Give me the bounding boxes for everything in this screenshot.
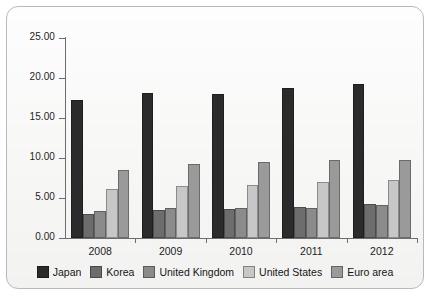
bar <box>153 210 165 238</box>
y-axis-tick-label: 0.00 <box>35 231 55 242</box>
bar <box>106 189 118 238</box>
legend-swatch-icon <box>37 266 49 278</box>
y-axis-tick-label: 10.00 <box>29 151 55 162</box>
legend-item-label: United States <box>259 266 322 278</box>
bar <box>235 208 247 238</box>
bar <box>294 207 306 238</box>
x-axis-tick-mark <box>135 238 136 243</box>
legend-item-label: Korea <box>106 266 134 278</box>
x-axis-group-label: 2012 <box>347 245 417 257</box>
legend-item[interactable]: Japan <box>37 266 82 278</box>
legend-item-label: Japan <box>53 266 82 278</box>
legend-swatch-icon <box>331 266 343 278</box>
bar <box>399 160 411 238</box>
legend-swatch-icon <box>143 266 155 278</box>
bar <box>188 164 200 238</box>
bar <box>224 209 236 238</box>
x-axis-group-label: 2008 <box>65 245 135 257</box>
bar <box>142 93 154 238</box>
plot-area <box>65 38 417 238</box>
legend-item[interactable]: Korea <box>90 266 134 278</box>
bar <box>176 186 188 238</box>
bar <box>317 182 329 238</box>
bar <box>212 94 224 238</box>
legend-swatch-icon <box>243 266 255 278</box>
legend-swatch-icon <box>90 266 102 278</box>
bar <box>329 160 341 238</box>
y-axis-tick-label: 20.00 <box>29 71 55 82</box>
legend-item[interactable]: United States <box>243 266 322 278</box>
y-axis-tick-label: 15.00 <box>29 111 55 122</box>
x-axis-group-label: 2009 <box>135 245 205 257</box>
bar <box>376 205 388 238</box>
legend-item-label: Euro area <box>347 266 393 278</box>
x-axis-tick-mark <box>276 238 277 243</box>
bar <box>83 214 95 238</box>
bar <box>71 100 83 238</box>
bar <box>306 208 318 238</box>
x-axis-line <box>65 238 417 239</box>
bar <box>165 208 177 238</box>
chart-card: 0.005.0010.0015.0020.0025.00 20082009201… <box>6 6 424 289</box>
x-axis-tick-mark <box>347 238 348 243</box>
bar <box>364 204 376 238</box>
bar <box>247 185 259 238</box>
legend-item[interactable]: Euro area <box>331 266 393 278</box>
bar <box>94 211 106 238</box>
x-axis-group-label: 2011 <box>276 245 346 257</box>
bar <box>118 170 130 238</box>
bar <box>353 84 365 238</box>
chart-legend: JapanKoreaUnited KingdomUnited StatesEur… <box>7 266 423 278</box>
x-axis-group-label: 2010 <box>206 245 276 257</box>
x-axis-tick-mark <box>417 238 418 243</box>
y-axis-tick-label: 25.00 <box>29 31 55 42</box>
legend-item[interactable]: United Kingdom <box>143 266 234 278</box>
x-axis-tick-mark <box>206 238 207 243</box>
y-axis-tick-label: 5.00 <box>35 191 55 202</box>
bar <box>282 88 294 238</box>
y-axis-tick-mark <box>59 238 65 239</box>
legend-item-label: United Kingdom <box>159 266 234 278</box>
bar <box>258 162 270 238</box>
bar <box>388 180 400 238</box>
